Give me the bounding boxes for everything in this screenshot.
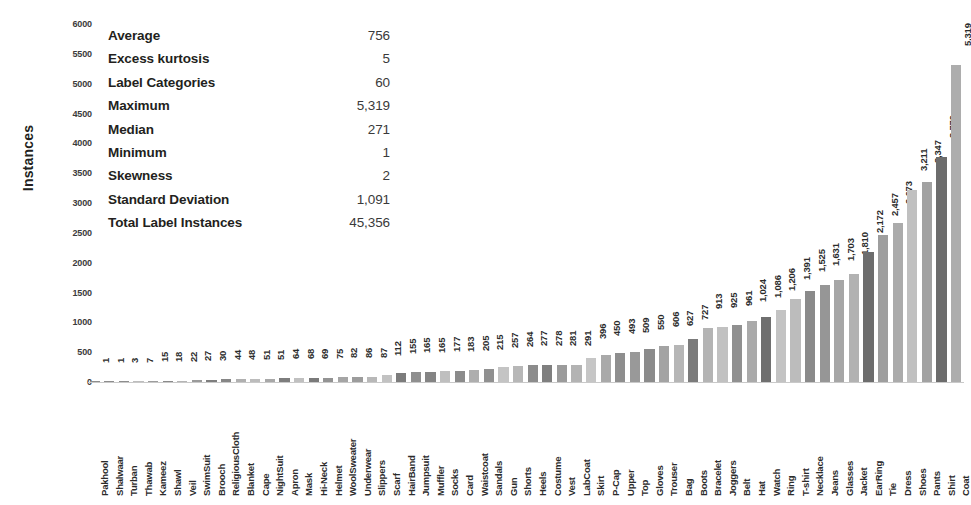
bar[interactable]	[396, 373, 406, 382]
y-axis-tick: 1500	[48, 288, 92, 298]
bar[interactable]	[382, 375, 392, 382]
stats-row-label: Skewness	[108, 168, 173, 183]
bar-slot[interactable]: 165	[424, 24, 439, 382]
bar-slot[interactable]: 3,347	[920, 24, 935, 382]
bar[interactable]	[411, 372, 421, 382]
x-axis-category-label: Jeans	[829, 470, 840, 496]
bar-slot[interactable]: 727	[687, 24, 702, 382]
y-axis-tick: 0	[48, 377, 92, 387]
stats-row-value: 271	[368, 122, 390, 137]
bar-slot[interactable]: 3,770	[935, 24, 950, 382]
x-axis-category-label: HairBand	[406, 455, 417, 496]
bar-slot[interactable]: 155	[395, 24, 410, 382]
bar-slot[interactable]: 281	[555, 24, 570, 382]
x-axis-category-label: Kameez	[157, 461, 168, 496]
bar-slot[interactable]: 177	[438, 24, 453, 382]
bar[interactable]	[571, 365, 581, 382]
bar-slot[interactable]: 961	[730, 24, 745, 382]
bar-slot[interactable]: 396	[584, 24, 599, 382]
bar-slot[interactable]: 627	[672, 24, 687, 382]
x-axis-category-label: Bag	[683, 479, 694, 496]
bar[interactable]	[747, 321, 757, 382]
bar-slot[interactable]: 493	[614, 24, 629, 382]
bar-slot[interactable]: 550	[643, 24, 658, 382]
bar[interactable]	[907, 190, 917, 382]
bar-slot[interactable]: 1,391	[789, 24, 804, 382]
bar[interactable]	[615, 353, 625, 382]
x-axis-category-label: Veil	[187, 480, 198, 496]
bar[interactable]	[674, 345, 684, 382]
bar-slot[interactable]: 1,810	[847, 24, 862, 382]
bar-slot[interactable]: 450	[599, 24, 614, 382]
bar[interactable]	[761, 317, 771, 382]
bar[interactable]	[922, 182, 932, 382]
stats-row-label: Standard Deviation	[108, 192, 229, 207]
bar[interactable]	[834, 280, 844, 382]
bar[interactable]	[893, 223, 903, 382]
bar[interactable]	[469, 370, 479, 382]
x-axis-category-label: Tie	[887, 483, 898, 496]
x-axis-category-label: Jumpsuit	[420, 455, 431, 496]
bar-slot[interactable]: 1,024	[745, 24, 760, 382]
x-axis-category-label: Gloves	[654, 466, 665, 496]
bar-slot[interactable]: 509	[628, 24, 643, 382]
x-axis-category-label: Joggers	[727, 460, 738, 496]
bar-slot[interactable]: 257	[497, 24, 512, 382]
x-axis-category-label: Dress	[902, 471, 913, 496]
bar-slot[interactable]: 165	[409, 24, 424, 382]
bar-slot[interactable]: 278	[541, 24, 556, 382]
bar[interactable]	[586, 358, 596, 382]
bar[interactable]	[484, 369, 494, 382]
x-axis-category-label: Hi-Neck	[318, 462, 329, 496]
bar[interactable]	[498, 367, 508, 382]
bar-slot[interactable]: 205	[468, 24, 483, 382]
x-axis-category-label: Socks	[449, 469, 460, 496]
bar[interactable]	[849, 274, 859, 382]
bar-slot[interactable]: 913	[701, 24, 716, 382]
bar-slot[interactable]: 2,172	[862, 24, 877, 382]
bar[interactable]	[717, 327, 727, 382]
bar-slot[interactable]: 1,206	[774, 24, 789, 382]
bar[interactable]	[659, 346, 669, 382]
bar-slot[interactable]: 1,086	[760, 24, 775, 382]
bar[interactable]	[878, 235, 888, 382]
bar[interactable]	[703, 328, 713, 382]
bar[interactable]	[630, 352, 640, 382]
x-axis-category-label: Necklace	[814, 456, 825, 496]
bar[interactable]	[455, 371, 465, 382]
bar-slot[interactable]: 2,673	[891, 24, 906, 382]
bar-slot[interactable]: 3,211	[906, 24, 921, 382]
bar[interactable]	[732, 325, 742, 382]
bar-slot[interactable]: 291	[570, 24, 585, 382]
bar[interactable]	[688, 339, 698, 382]
bar[interactable]	[644, 349, 654, 382]
bar[interactable]	[936, 157, 946, 382]
bar-slot[interactable]: 277	[526, 24, 541, 382]
bar-slot[interactable]: 1	[88, 24, 103, 382]
bar[interactable]	[425, 372, 435, 382]
bar[interactable]	[863, 252, 873, 382]
bar[interactable]	[440, 371, 450, 382]
bar-slot[interactable]: 2,457	[876, 24, 891, 382]
bar-slot[interactable]: 1,525	[803, 24, 818, 382]
bar-slot[interactable]: 925	[716, 24, 731, 382]
y-axis-tick: 6000	[48, 19, 92, 29]
bar[interactable]	[951, 65, 961, 382]
bar-slot[interactable]: 606	[657, 24, 672, 382]
bar[interactable]	[601, 355, 611, 382]
bar-slot[interactable]: 215	[482, 24, 497, 382]
bar-slot[interactable]: 183	[453, 24, 468, 382]
bar[interactable]	[513, 366, 523, 382]
x-axis-category-label: Watch	[771, 469, 782, 496]
bar[interactable]	[776, 310, 786, 382]
bar[interactable]	[557, 365, 567, 382]
bar[interactable]	[805, 291, 815, 382]
bar[interactable]	[820, 285, 830, 382]
bar[interactable]	[528, 365, 538, 382]
bar-slot[interactable]: 1,631	[818, 24, 833, 382]
bar[interactable]	[790, 299, 800, 382]
bar[interactable]	[542, 365, 552, 382]
bar-slot[interactable]: 264	[511, 24, 526, 382]
bar-slot[interactable]: 5,319	[949, 24, 964, 382]
bar-slot[interactable]: 1,703	[833, 24, 848, 382]
